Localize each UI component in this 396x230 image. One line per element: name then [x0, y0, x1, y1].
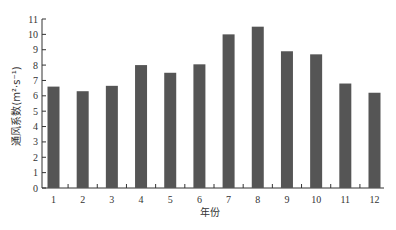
y-tick-label: 3 [33, 136, 38, 147]
y-tick-label: 9 [33, 44, 38, 55]
y-tick-label: 2 [33, 152, 38, 163]
bar-3 [106, 86, 118, 188]
bar-7 [223, 34, 235, 188]
x-axis: 123456789101112 [42, 184, 384, 205]
x-tick-label: 10 [311, 194, 321, 205]
bar-10 [310, 54, 322, 188]
x-tick-label: 6 [197, 194, 202, 205]
bar-8 [252, 27, 264, 188]
bar-12 [369, 93, 381, 188]
y-tick-label: 10 [28, 29, 38, 40]
bar-9 [281, 51, 293, 188]
bar-11 [339, 84, 351, 188]
y-tick-label: 4 [33, 121, 38, 132]
x-tick-label: 1 [51, 194, 56, 205]
bar-4 [135, 65, 147, 188]
y-tick-label: 0 [33, 183, 38, 194]
x-tick-label: 7 [226, 194, 231, 205]
x-tick-label: 11 [340, 194, 350, 205]
y-tick-label: 8 [33, 60, 38, 71]
x-tick-label: 3 [109, 194, 114, 205]
bar-chart: 01234567891011 123456789101112 年份 通风系数(m… [0, 0, 396, 230]
bar-2 [77, 91, 89, 188]
y-axis: 01234567891011 [28, 14, 46, 194]
x-axis-title: 年份 [200, 206, 220, 218]
x-tick-label: 4 [139, 194, 144, 205]
y-tick-label: 1 [33, 167, 38, 178]
y-tick-label: 5 [33, 106, 38, 117]
bar-1 [48, 87, 60, 188]
x-tick-label: 5 [168, 194, 173, 205]
x-tick-label: 9 [284, 194, 289, 205]
x-tick-label: 2 [80, 194, 85, 205]
x-tick-label: 8 [255, 194, 260, 205]
bar-6 [193, 64, 205, 188]
bar-5 [164, 73, 176, 188]
y-tick-label: 6 [33, 90, 38, 101]
bars [48, 27, 381, 188]
y-tick-label: 11 [28, 14, 38, 25]
x-tick-label: 12 [370, 194, 380, 205]
y-axis-title: 通风系数(m²·s⁻¹) [10, 66, 22, 145]
y-tick-label: 7 [33, 75, 38, 86]
